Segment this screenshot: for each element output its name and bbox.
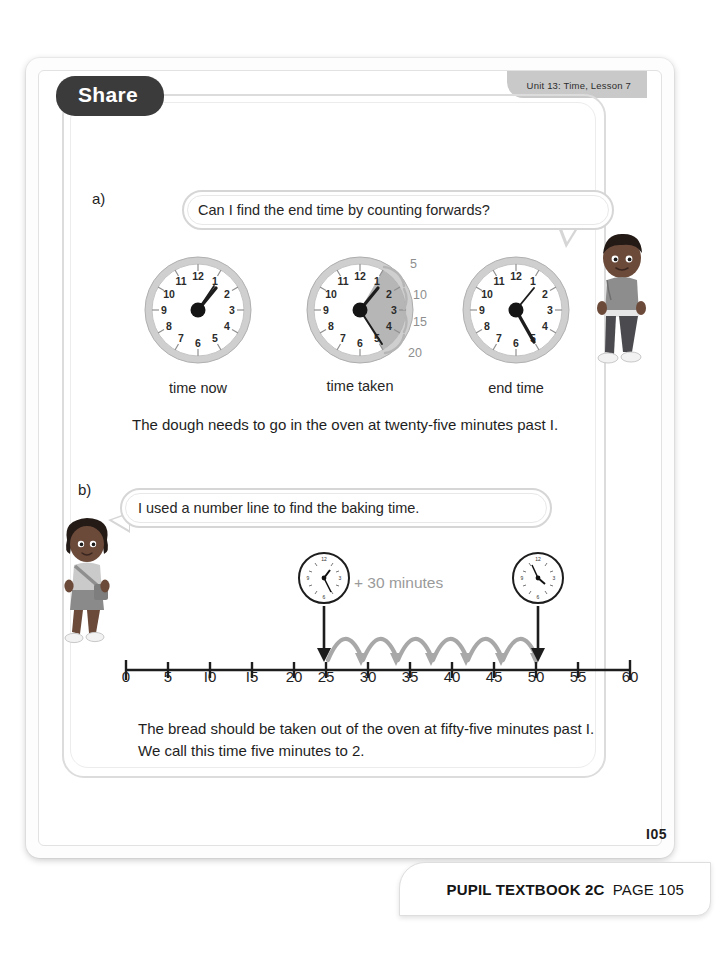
end-time-clock: 1212 345 678 91011 end time	[458, 252, 574, 372]
girl-character	[58, 512, 116, 662]
tick-label-15: I5	[237, 668, 267, 685]
paragraph-a: The dough needs to go in the oven at twe…	[132, 414, 602, 436]
svg-text:1: 1	[374, 275, 380, 287]
svg-text:9: 9	[161, 304, 167, 316]
svg-text:12: 12	[535, 556, 541, 562]
footer-source-tab: PUPIL TEXTBOOK 2C PAGE 105	[399, 862, 711, 916]
svg-text:20: 20	[408, 346, 422, 360]
svg-text:9: 9	[307, 575, 310, 581]
tick-label-20: 20	[279, 668, 309, 685]
tick-label-40: 40	[437, 668, 467, 685]
paragraph-b: The bread should be taken out of the ove…	[138, 718, 608, 762]
svg-text:6: 6	[537, 594, 540, 600]
number-line-end-clock: 123 69	[513, 553, 563, 603]
svg-text:1: 1	[212, 275, 218, 287]
svg-text:3: 3	[547, 304, 553, 316]
svg-text:4: 4	[542, 320, 548, 332]
svg-text:9: 9	[521, 575, 524, 581]
number-line-diagram: 123 69 123 69	[118, 548, 638, 688]
svg-text:1: 1	[530, 275, 536, 287]
tick-label-45: 45	[479, 668, 509, 685]
tick-label-30: 30	[353, 668, 383, 685]
svg-text:7: 7	[340, 332, 346, 344]
speech-bubble-b: I used a number line to find the baking …	[120, 488, 552, 528]
svg-text:4: 4	[224, 320, 230, 332]
tick-label-5: 5	[153, 668, 183, 685]
svg-text:6: 6	[357, 337, 363, 349]
svg-text:5: 5	[212, 332, 218, 344]
svg-text:4: 4	[386, 320, 392, 332]
tick-label-35: 35	[395, 668, 425, 685]
footer-book-label: PUPIL TEXTBOOK 2C	[446, 881, 604, 898]
svg-text:2: 2	[386, 288, 392, 300]
tick-label-50: 50	[521, 668, 551, 685]
svg-text:11: 11	[493, 275, 504, 287]
clock-label-time-now: time now	[128, 380, 268, 396]
clock-label-end-time: end time	[446, 380, 586, 396]
svg-text:15: 15	[413, 315, 427, 329]
clock-row: 1212 345 678 91011 time now	[140, 252, 600, 412]
svg-text:11: 11	[175, 275, 186, 287]
svg-text:10: 10	[481, 288, 493, 300]
svg-text:2: 2	[224, 288, 230, 300]
svg-text:12: 12	[321, 556, 327, 562]
svg-text:10: 10	[163, 288, 175, 300]
svg-text:6: 6	[195, 337, 201, 349]
svg-text:6: 6	[513, 337, 519, 349]
boy-character	[592, 228, 652, 382]
svg-text:8: 8	[166, 320, 172, 332]
svg-text:6: 6	[323, 594, 326, 600]
svg-text:7: 7	[178, 332, 184, 344]
svg-text:11: 11	[337, 275, 348, 287]
clock-label-time-taken: time taken	[290, 378, 430, 394]
plus-thirty-minutes-label: + 30 minutes	[354, 574, 443, 592]
svg-text:12: 12	[354, 270, 366, 282]
time-taken-clock: 1212 345 678 91011 5 10 15 20 time t	[300, 250, 450, 380]
tick-label-60: 60	[615, 668, 645, 685]
svg-text:12: 12	[192, 270, 204, 282]
svg-text:10: 10	[325, 288, 337, 300]
svg-text:3: 3	[553, 575, 556, 581]
svg-text:5: 5	[410, 257, 417, 271]
svg-text:2: 2	[542, 288, 548, 300]
svg-text:12: 12	[510, 270, 522, 282]
section-marker-b: b)	[78, 481, 91, 498]
svg-text:9: 9	[323, 304, 329, 316]
speech-bubble-a-text: Can I find the end time by counting forw…	[198, 202, 490, 218]
tick-label-25: 25	[311, 668, 341, 685]
svg-text:3: 3	[391, 304, 397, 316]
speech-bubble-a: Can I find the end time by counting forw…	[182, 190, 614, 230]
svg-text:3: 3	[229, 304, 235, 316]
tick-label-10: I0	[195, 668, 225, 685]
page-number: I05	[646, 826, 667, 842]
number-line-start-clock: 123 69	[299, 553, 349, 603]
footer-page-label: PAGE 105	[613, 881, 684, 898]
svg-text:8: 8	[484, 320, 490, 332]
section-marker-a: a)	[92, 190, 105, 207]
tick-label-55: 55	[563, 668, 593, 685]
svg-text:7: 7	[496, 332, 502, 344]
svg-text:8: 8	[328, 320, 334, 332]
svg-text:3: 3	[339, 575, 342, 581]
svg-text:9: 9	[479, 304, 485, 316]
speech-bubble-b-text: I used a number line to find the baking …	[138, 500, 419, 516]
svg-text:10: 10	[413, 288, 427, 302]
share-section-badge: Share	[56, 76, 164, 116]
tick-label-0: 0	[111, 668, 141, 685]
time-now-clock: 1212 345 678 91011 time now	[140, 252, 256, 372]
